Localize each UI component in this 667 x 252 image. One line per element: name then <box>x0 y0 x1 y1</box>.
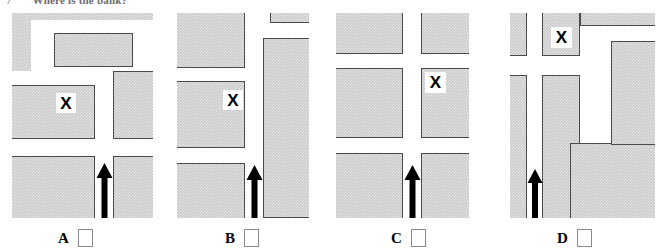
map-option-d[interactable]: X <box>510 13 655 218</box>
map-b-block-bottom-left <box>177 163 245 218</box>
map-c-canvas: X <box>336 13 469 218</box>
question-stub: 7 Where is the bank? <box>6 0 406 6</box>
map-b-block-right-tall <box>263 38 309 218</box>
option-letter-d: D <box>557 231 568 246</box>
option-checkbox-b[interactable] <box>244 229 259 247</box>
map-d-x-marker: X <box>551 27 572 48</box>
map-c-x-marker: X <box>425 72 446 93</box>
map-a-canvas: X <box>12 13 153 218</box>
question-text: Where is the bank? <box>32 0 127 6</box>
map-b-block-top-right <box>270 13 309 23</box>
map-c-block-bottom-left <box>336 153 403 218</box>
answer-option-a[interactable]: A <box>58 226 93 250</box>
map-a-x-marker: X <box>56 93 76 113</box>
map-d-block-l-foot <box>570 143 655 218</box>
map-d-direction-arrow <box>527 169 543 218</box>
map-c-block-mid-left <box>336 68 403 138</box>
map-option-b[interactable]: X <box>177 13 309 218</box>
map-a-direction-arrow <box>96 163 113 218</box>
map-c-block-top-right <box>421 13 469 54</box>
map-c-direction-arrow <box>404 165 421 218</box>
question-number: 7 <box>6 0 12 6</box>
answer-option-b[interactable]: B <box>225 226 259 250</box>
map-option-c[interactable]: X <box>336 13 469 218</box>
map-d-block-left-upper <box>510 13 527 56</box>
option-checkbox-c[interactable] <box>411 229 426 247</box>
map-c-block-top-left <box>336 13 403 54</box>
answer-option-d[interactable]: D <box>557 226 592 250</box>
map-d-block-top-right-bar <box>580 13 655 26</box>
map-d-block-left-lower <box>510 75 527 218</box>
map-a-block-inner <box>54 33 133 67</box>
map-a-block-bottom-right <box>113 156 153 218</box>
map-b-direction-arrow <box>246 165 263 218</box>
option-letter-a: A <box>58 231 69 246</box>
map-option-a[interactable]: X <box>12 13 153 218</box>
map-c-block-bottom-right <box>421 153 469 218</box>
map-b-x-marker: X <box>223 90 243 110</box>
map-b-block-top-left <box>177 13 245 68</box>
map-b-canvas: X <box>177 13 309 218</box>
option-letter-b: B <box>225 231 235 246</box>
map-a-block-mid-left <box>12 85 95 139</box>
map-d-block-right-column <box>611 41 655 145</box>
map-a-block-bottom-left <box>12 156 95 218</box>
answer-option-c[interactable]: C <box>391 226 426 250</box>
map-a-street-horizontal-lower <box>12 139 153 156</box>
map-a-block-mid-right <box>113 71 153 139</box>
option-letter-c: C <box>391 231 402 246</box>
option-checkbox-d[interactable] <box>577 229 592 247</box>
option-checkbox-a[interactable] <box>78 229 93 247</box>
map-d-canvas: X <box>510 13 655 218</box>
